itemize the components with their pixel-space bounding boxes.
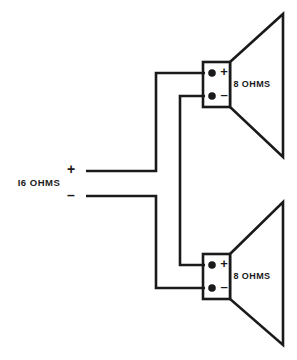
input-positive-sign: + xyxy=(67,161,75,177)
speaker-top-negative-sign: – xyxy=(220,87,227,102)
speaker-top-positive-terminal-dot xyxy=(208,69,216,77)
speaker-bottom-positive-sign: + xyxy=(220,256,228,271)
speaker-bottom: + – 8 OHMS xyxy=(203,202,283,345)
speaker-bottom-negative-sign: – xyxy=(220,279,227,294)
speaker-bottom-negative-terminal-dot xyxy=(208,284,216,292)
speaker-bottom-impedance-label: 8 OHMS xyxy=(234,271,271,281)
input-terminals: + – I6 OHMS xyxy=(18,161,75,203)
speaker-top-positive-sign: + xyxy=(220,64,228,79)
wire-input-negative-to-bottom-negative xyxy=(86,196,205,288)
wire-series-link-top-negative-to-bottom-positive xyxy=(180,96,205,265)
speaker-wiring-diagram: + – 8 OHMS + – 8 OHMS + – I6 OHMS xyxy=(0,0,297,360)
schematic-canvas: + – 8 OHMS + – 8 OHMS + – I6 OHMS xyxy=(0,0,297,360)
speaker-top-negative-terminal-dot xyxy=(208,92,216,100)
speaker-top: + – 8 OHMS xyxy=(203,14,283,157)
speaker-bottom-positive-terminal-dot xyxy=(208,261,216,269)
input-impedance-label: I6 OHMS xyxy=(18,177,61,188)
wire-input-positive-to-top-positive xyxy=(86,73,205,171)
speaker-top-impedance-label: 8 OHMS xyxy=(234,79,271,89)
input-negative-sign: – xyxy=(67,187,75,203)
